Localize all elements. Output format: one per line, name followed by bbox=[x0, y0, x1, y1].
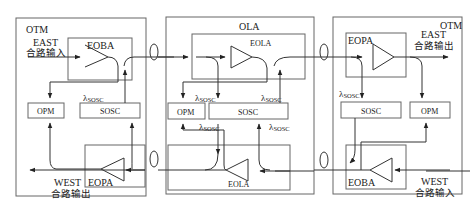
lambda-sosc-ola-3: λSOSC bbox=[199, 122, 220, 134]
sosc-right: SOSC bbox=[361, 106, 381, 117]
lambda-sosc-ola-2: λSOSC bbox=[261, 93, 282, 105]
opm-left: OPM bbox=[37, 106, 54, 117]
fiber-coil-2 bbox=[320, 44, 328, 60]
eopa-left-label: EOPA bbox=[88, 177, 113, 188]
west-input-label: WEST bbox=[421, 176, 448, 187]
east-input-cjk-label: 合路输入 bbox=[26, 47, 66, 58]
lambda-sosc-right: λSOSC bbox=[339, 89, 360, 101]
fiber-coil-3 bbox=[150, 151, 158, 167]
lambda-sosc-ola-4: λSOSC bbox=[269, 122, 290, 134]
eoba-left-label: EOBA bbox=[87, 40, 114, 51]
west-output-cjk-label: 合路输出 bbox=[51, 188, 91, 199]
west-output-label: WEST bbox=[54, 177, 81, 188]
sosc-ola: SOSC bbox=[238, 107, 258, 118]
eopa-right-label: EOPA bbox=[348, 35, 373, 46]
fiber-coil-1 bbox=[150, 44, 158, 60]
eoba-right-label: EOBA bbox=[348, 177, 375, 188]
west-input-cjk-label: 合路输入 bbox=[415, 187, 455, 198]
lambda-sosc-left: λSOSC bbox=[83, 93, 104, 105]
east-output-label: EAST bbox=[421, 29, 446, 40]
ola-frame bbox=[166, 17, 314, 194]
eola-bottom-label: EOLA bbox=[228, 179, 249, 190]
sosc-left: SOSC bbox=[100, 106, 120, 117]
lambda-sosc-ola-1: λSOSC bbox=[195, 93, 216, 105]
east-output-cjk-label: 合路输出 bbox=[414, 40, 454, 51]
opm-ola: OPM bbox=[177, 107, 194, 118]
fiber-coil-4 bbox=[320, 152, 328, 168]
opm-right: OPM bbox=[421, 106, 438, 117]
ola-title: OLA bbox=[239, 21, 260, 32]
otm-left-title: OTM bbox=[26, 24, 48, 35]
eola-top-label: EOLA bbox=[250, 38, 271, 49]
